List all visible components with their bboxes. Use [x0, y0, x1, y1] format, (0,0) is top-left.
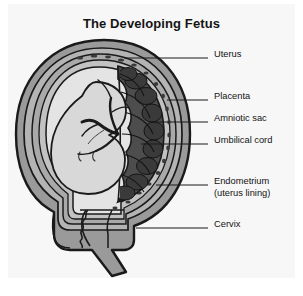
label-placenta-text: Placenta [214, 91, 250, 101]
label-cervix-text: Cervix [214, 219, 240, 229]
label-umbilical-cord: Umbilical cord [214, 135, 272, 147]
label-uterus-text: Uterus [214, 49, 241, 59]
label-amniotic-sac-text: Amniotic sac [214, 113, 267, 123]
label-uterus: Uterus [214, 49, 241, 61]
label-cervix: Cervix [214, 219, 240, 231]
label-umbilical-cord-text: Umbilical cord [214, 135, 272, 145]
figure-title: The Developing Fetus [8, 16, 295, 31]
label-placenta: Placenta [214, 91, 250, 103]
label-endometrium-text: Endometrium [214, 176, 269, 186]
figure-panel: The Developing Fetus [8, 4, 295, 278]
label-endometrium: Endometrium (uterus lining) [214, 176, 270, 199]
label-endometrium-subtext: (uterus lining) [214, 188, 270, 198]
label-amniotic-sac: Amniotic sac [214, 113, 267, 125]
callout-labels: Uterus Placenta Amniotic sac Umbilical c… [8, 34, 295, 278]
